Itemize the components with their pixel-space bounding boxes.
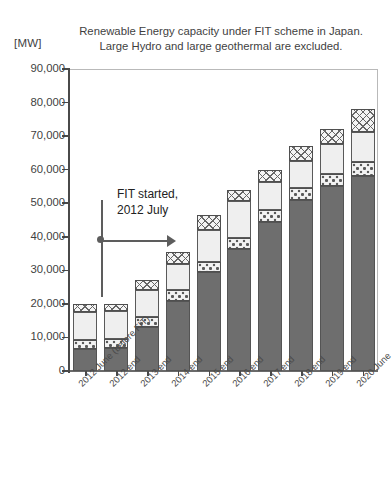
fit-start-annotation-line-2: 2012 July: [117, 202, 237, 218]
fit-start-annotation-line-1: FIT started,: [117, 186, 237, 202]
x-axis-label: 2013 end: [138, 353, 173, 388]
x-axis-label: 2019 end: [323, 353, 358, 388]
x-axis-label: 2015 end: [200, 353, 235, 388]
x-axis-label: 2017 end: [261, 353, 296, 388]
fit-start-arrow-shaft: [101, 240, 169, 242]
fit-start-arrow-head-icon: [167, 235, 176, 247]
fit-start-annotation-text: FIT started, 2012 July: [117, 186, 237, 218]
x-axis-label: 2020 June: [354, 350, 392, 389]
fit-start-vertical-line: [101, 200, 103, 297]
x-axis-label: 2016 end: [230, 353, 265, 388]
x-axis-label: 2014 end: [169, 353, 204, 388]
x-axis-label: 2018 end: [292, 353, 327, 388]
